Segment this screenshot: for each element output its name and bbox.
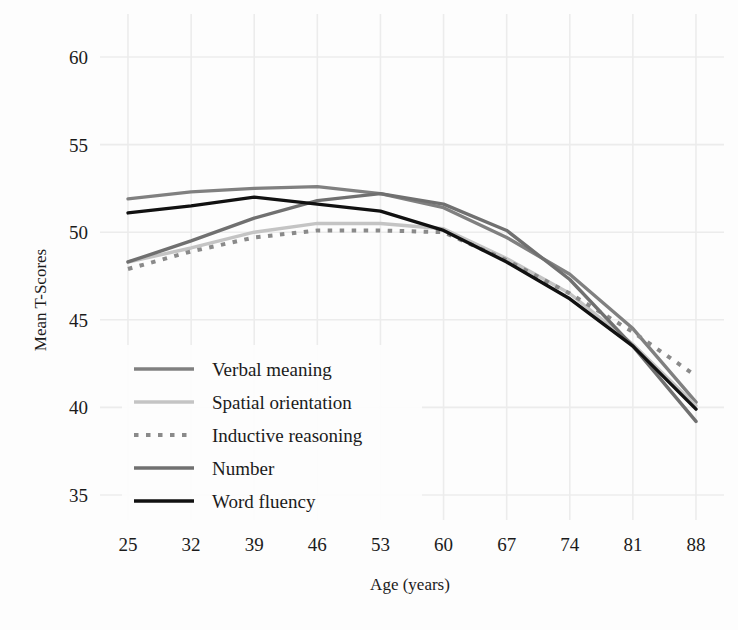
- x-tick-label: 39: [245, 534, 264, 555]
- x-tick-label: 25: [119, 534, 138, 555]
- chart-legend: Verbal meaningSpatial orientationInducti…: [122, 345, 422, 526]
- y-tick-label: 40: [69, 397, 88, 418]
- y-tick-label: 55: [69, 135, 88, 156]
- x-tick-label: 81: [623, 534, 642, 555]
- x-tick-label: 74: [560, 534, 580, 555]
- y-tick-label: 45: [69, 310, 88, 331]
- x-tick-label: 60: [434, 534, 453, 555]
- y-tick-label: 60: [69, 47, 88, 68]
- y-axis-title: Mean T-Scores: [31, 249, 50, 351]
- y-tick-label: 50: [69, 222, 88, 243]
- x-tick-label: 88: [687, 534, 706, 555]
- legend-label-verbal-meaning: Verbal meaning: [212, 359, 332, 380]
- legend-label-number: Number: [212, 458, 275, 479]
- x-axis-tick-labels: 25323946536067748188: [119, 534, 706, 555]
- legend-label-spatial-orientation: Spatial orientation: [212, 392, 352, 413]
- chart-container: 605550454035 25323946536067748188 Mean T…: [0, 0, 738, 630]
- x-axis-title: Age (years): [370, 575, 450, 594]
- legend-label-word-fluency: Word fluency: [212, 491, 316, 512]
- x-tick-label: 53: [371, 534, 390, 555]
- legend-label-inductive-reasoning: Inductive reasoning: [212, 425, 363, 446]
- y-axis-tick-labels: 605550454035: [69, 47, 88, 506]
- x-tick-label: 32: [182, 534, 201, 555]
- y-tick-label: 35: [69, 485, 88, 506]
- x-tick-label: 46: [308, 534, 327, 555]
- line-chart: 605550454035 25323946536067748188 Mean T…: [0, 0, 738, 630]
- x-tick-label: 67: [497, 534, 516, 555]
